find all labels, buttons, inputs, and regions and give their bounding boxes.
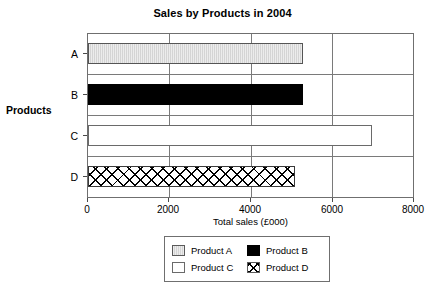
- gridline-horizontal-3: [88, 156, 413, 157]
- xtick-mark-8000: [413, 198, 414, 202]
- bar-product-a: [88, 43, 303, 64]
- legend-item-product-d: Product D: [247, 262, 322, 273]
- bar-product-b: [88, 84, 303, 105]
- ytick-label-b: B: [58, 89, 78, 101]
- ytick-label-a: A: [58, 48, 78, 60]
- xtick-label-4000: 4000: [225, 203, 275, 216]
- legend-row: Product A Product B: [172, 242, 322, 259]
- xtick-mark-6000: [332, 198, 333, 202]
- chart-title: Sales by Products in 2004: [0, 6, 445, 20]
- legend-item-product-a: Product A: [172, 245, 247, 256]
- xtick-mark-2000: [168, 198, 169, 202]
- xtick-mark-4000: [250, 198, 251, 202]
- xtick-label-0: 0: [62, 203, 112, 216]
- xtick-mark-0: [87, 198, 88, 202]
- legend-label-product-a: Product A: [191, 245, 232, 256]
- xaxis-title: Total sales (£000): [87, 216, 414, 228]
- bar-chart: Sales by Products in 2004 A B C D Produc…: [0, 0, 445, 299]
- legend-swatch-icon-product-b: [247, 245, 260, 256]
- xtick-label-6000: 6000: [307, 203, 357, 216]
- legend-swatch-icon-product-c: [172, 262, 185, 273]
- bar-product-d: [88, 166, 295, 187]
- ytick-mark-d: [83, 176, 87, 177]
- legend-item-product-c: Product C: [172, 262, 247, 273]
- ytick-mark-c: [83, 135, 87, 136]
- legend-row: Product C Product D: [172, 259, 322, 276]
- gridline-horizontal-1: [88, 74, 413, 75]
- chart-legend: Product A Product B Product C Product D: [164, 236, 330, 282]
- legend-label-product-d: Product D: [266, 262, 308, 273]
- bar-product-c: [88, 125, 372, 146]
- plot-area: [87, 33, 414, 198]
- legend-item-product-b: Product B: [247, 245, 322, 256]
- ytick-label-c: C: [58, 130, 78, 142]
- xtick-label-2000: 2000: [143, 203, 193, 216]
- legend-label-product-c: Product C: [191, 262, 233, 273]
- ytick-label-d: D: [58, 171, 78, 183]
- legend-swatch-icon-product-d: [247, 262, 260, 273]
- legend-swatch-icon-product-a: [172, 245, 185, 256]
- legend-label-product-b: Product B: [266, 245, 308, 256]
- ytick-mark-a: [83, 53, 87, 54]
- xtick-label-8000: 8000: [388, 203, 438, 216]
- ytick-mark-b: [83, 94, 87, 95]
- yaxis-title: Products: [6, 104, 52, 116]
- gridline-horizontal-2: [88, 115, 413, 116]
